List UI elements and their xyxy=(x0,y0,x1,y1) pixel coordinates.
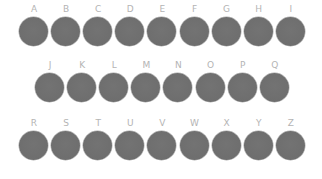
letter-key[interactable]: D xyxy=(115,4,145,52)
letter-key-label: B xyxy=(51,4,81,14)
letter-key-label: N xyxy=(163,60,193,70)
letter-key[interactable]: U xyxy=(115,118,145,166)
letter-key-button[interactable] xyxy=(35,73,64,102)
letter-key-label: G xyxy=(212,4,242,14)
letter-key-label: Q xyxy=(260,60,290,70)
letter-key-label: Y xyxy=(244,118,274,128)
letter-key-label: A xyxy=(19,4,49,14)
letter-key-label: X xyxy=(212,118,242,128)
letter-key[interactable]: M xyxy=(131,60,161,108)
letter-key-label: E xyxy=(147,4,177,14)
letter-key-button[interactable] xyxy=(115,17,144,46)
letter-key[interactable]: S xyxy=(51,118,81,166)
letter-key-label: F xyxy=(180,4,210,14)
letter-key-button[interactable] xyxy=(19,17,48,46)
letter-key[interactable]: B xyxy=(51,4,81,52)
letter-key[interactable]: A xyxy=(19,4,49,52)
letter-key-button[interactable] xyxy=(228,73,257,102)
letter-key-button[interactable] xyxy=(51,17,80,46)
letter-key-button[interactable] xyxy=(99,73,128,102)
letter-key-button[interactable] xyxy=(196,73,225,102)
letter-key[interactable]: Y xyxy=(244,118,274,166)
letter-key[interactable]: V xyxy=(147,118,177,166)
letter-key-button[interactable] xyxy=(212,131,241,160)
letter-key-button[interactable] xyxy=(260,73,289,102)
letter-key-button[interactable] xyxy=(244,17,273,46)
letter-key-label: J xyxy=(35,60,65,70)
letter-key-label: R xyxy=(19,118,49,128)
letter-key-button[interactable] xyxy=(180,17,209,46)
letter-key-label: P xyxy=(228,60,258,70)
letter-key[interactable]: K xyxy=(67,60,97,108)
letter-key-button[interactable] xyxy=(163,73,192,102)
letter-key-button[interactable] xyxy=(244,131,273,160)
letter-key-label: D xyxy=(115,4,145,14)
letter-key-label: W xyxy=(180,118,210,128)
letter-key-label: M xyxy=(131,60,161,70)
letter-key[interactable]: C xyxy=(83,4,113,52)
letter-key[interactable]: P xyxy=(228,60,258,108)
letter-key-button[interactable] xyxy=(212,17,241,46)
letter-key[interactable]: R xyxy=(19,118,49,166)
letter-key-label: H xyxy=(244,4,274,14)
letter-key-button[interactable] xyxy=(51,131,80,160)
letter-key[interactable]: F xyxy=(180,4,210,52)
letter-key-label: C xyxy=(83,4,113,14)
letter-key-button[interactable] xyxy=(83,17,112,46)
letter-key-label: K xyxy=(67,60,97,70)
letter-key-label: I xyxy=(276,4,306,14)
letter-key-label: T xyxy=(83,118,113,128)
letter-key[interactable]: I xyxy=(276,4,306,52)
letter-key[interactable]: X xyxy=(212,118,242,166)
letter-key[interactable]: O xyxy=(196,60,226,108)
letter-key-button[interactable] xyxy=(147,131,176,160)
letter-key-button[interactable] xyxy=(67,73,96,102)
letter-key-label: S xyxy=(51,118,81,128)
letter-key-button[interactable] xyxy=(276,131,305,160)
letter-key-button[interactable] xyxy=(115,131,144,160)
letter-key[interactable]: N xyxy=(163,60,193,108)
letter-key[interactable]: T xyxy=(83,118,113,166)
letter-key-button[interactable] xyxy=(19,131,48,160)
letter-key-button[interactable] xyxy=(83,131,112,160)
letter-key-button[interactable] xyxy=(180,131,209,160)
letter-key-button[interactable] xyxy=(276,17,305,46)
letter-key-label: U xyxy=(115,118,145,128)
letter-key[interactable]: Q xyxy=(260,60,290,108)
letter-key[interactable]: J xyxy=(35,60,65,108)
letter-key[interactable]: G xyxy=(212,4,242,52)
letter-key[interactable]: E xyxy=(147,4,177,52)
letter-key-label: V xyxy=(147,118,177,128)
letter-key[interactable]: H xyxy=(244,4,274,52)
letter-key-button[interactable] xyxy=(147,17,176,46)
letter-key[interactable]: L xyxy=(99,60,129,108)
letter-key[interactable]: W xyxy=(180,118,210,166)
letter-key-label: L xyxy=(99,60,129,70)
letter-key-button[interactable] xyxy=(131,73,160,102)
letter-key-label: O xyxy=(196,60,226,70)
letter-key[interactable]: Z xyxy=(276,118,306,166)
letter-key-label: Z xyxy=(276,118,306,128)
